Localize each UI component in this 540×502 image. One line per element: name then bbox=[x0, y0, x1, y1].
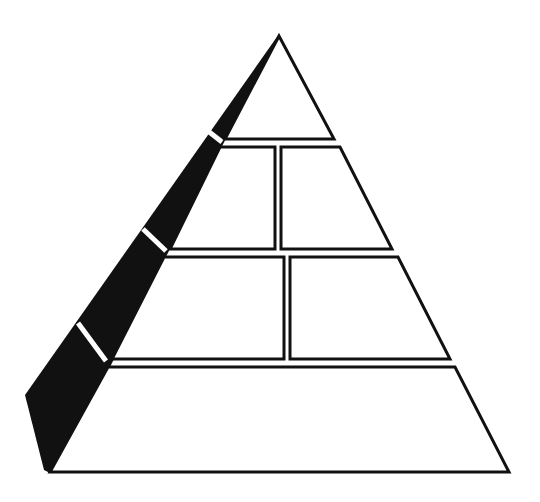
tier-4-base-block[interactable] bbox=[50, 367, 509, 472]
tier-2-right-block[interactable] bbox=[281, 147, 392, 249]
pyramid-diagram bbox=[0, 0, 540, 502]
tier-3-right-block[interactable] bbox=[290, 257, 450, 359]
tier-1-block[interactable] bbox=[225, 36, 334, 139]
